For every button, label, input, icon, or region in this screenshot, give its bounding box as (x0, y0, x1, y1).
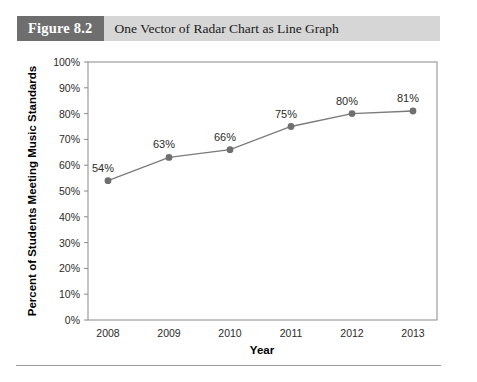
data-marker (166, 154, 173, 161)
data-marker (227, 146, 234, 153)
x-tick-label: 2013 (401, 327, 425, 339)
line-chart: 0%10%20%30%40%50%60%70%80%90%100% 200820… (0, 41, 477, 365)
figure-title: One Vector of Radar Chart as Line Graph (104, 16, 339, 41)
x-tick-label: 2009 (157, 327, 181, 339)
data-point-label: 63% (153, 138, 175, 150)
data-marker (105, 177, 112, 184)
y-tick-label: 30% (59, 237, 80, 249)
y-tick-label: 80% (59, 108, 80, 120)
data-marker (288, 123, 295, 130)
x-axis-title: Year (250, 344, 275, 356)
x-tick-label: 2010 (218, 327, 242, 339)
y-tick-label: 90% (59, 82, 80, 94)
data-marker (349, 110, 356, 117)
y-tick-label: 40% (59, 211, 80, 223)
plot-frame (88, 62, 437, 320)
y-tick-label: 100% (53, 56, 80, 68)
data-point-label: 75% (275, 108, 297, 120)
data-marker (410, 108, 417, 115)
chart-svg: 0%10%20%30%40%50%60%70%80%90%100% 200820… (0, 41, 477, 365)
y-tick-label: 0% (65, 314, 80, 326)
data-point-label: 54% (92, 162, 114, 174)
x-axis-tick-labels: 200820092010201120122013 (96, 327, 425, 339)
y-axis-title: Percent of Students Meeting Music Standa… (26, 66, 38, 316)
y-tick-label: 20% (59, 262, 80, 274)
data-point-label: 66% (214, 131, 236, 143)
y-axis-ticks (84, 62, 88, 320)
x-tick-label: 2011 (280, 327, 303, 339)
figure-number-badge: Figure 8.2 (17, 16, 104, 41)
y-tick-label: 50% (59, 185, 80, 197)
y-tick-label: 70% (59, 133, 80, 145)
y-tick-label: 60% (59, 159, 80, 171)
data-point-label: 81% (397, 92, 419, 104)
y-tick-label: 10% (59, 288, 80, 300)
x-tick-label: 2012 (340, 327, 364, 339)
x-tick-label: 2008 (96, 327, 120, 339)
figure-caption-header: Figure 8.2 One Vector of Radar Chart as … (17, 16, 440, 41)
y-axis-tick-labels: 0%10%20%30%40%50%60%70%80%90%100% (53, 56, 80, 326)
data-point-label: 80% (336, 95, 358, 107)
bottom-divider (16, 365, 441, 366)
